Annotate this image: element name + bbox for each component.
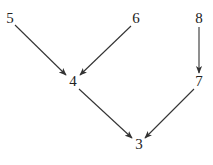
edge-5-to-4-arrow-icon [15,25,66,75]
edge-4-to-3-arrow-icon [79,89,132,138]
node-6: 6 [129,11,143,27]
node-5: 5 [3,11,17,27]
directed-graph-diagram: 5 6 8 4 7 3 [0,0,213,165]
edges-layer [0,0,213,165]
node-7: 7 [192,74,206,90]
node-3: 3 [132,137,146,153]
edge-7-to-3-arrow-icon [145,89,194,138]
node-4: 4 [66,74,80,90]
edge-6-to-4-arrow-icon [80,26,131,75]
edge-group [15,25,199,138]
node-8: 8 [192,11,206,27]
